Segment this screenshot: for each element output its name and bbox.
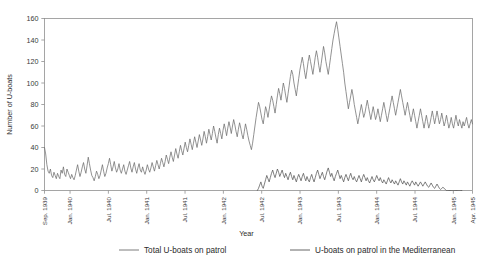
y-tick-label: 0 — [35, 186, 39, 195]
legend-label: U-boats on patrol in the Mediterranean — [315, 246, 456, 255]
legend-label: Total U-boats on patrol — [144, 246, 227, 255]
series-line-mediterranean — [257, 168, 462, 191]
y-axis-title: Number of U-boats — [5, 74, 14, 135]
y-axis-tick-group: 020406080100120140160 — [27, 14, 45, 195]
series-line-total — [45, 22, 473, 181]
series-group — [45, 22, 473, 191]
y-tick-label: 140 — [27, 36, 39, 45]
x-tick-label: Jan. 1942 — [220, 196, 227, 224]
x-tick-label: Jan. 1945 — [450, 196, 457, 224]
x-tick-label: Jan. 1943 — [296, 196, 303, 224]
y-tick-label: 100 — [27, 79, 39, 88]
x-tick-label: Jan. 1944 — [373, 196, 380, 224]
x-tick-label: Jul. 1943 — [335, 196, 342, 222]
x-tick-label: Apr. 1945 — [469, 196, 476, 223]
x-tick-label: Jan. 1940 — [66, 196, 73, 224]
y-tick-label: 120 — [27, 57, 39, 66]
y-tick-label: 40 — [31, 143, 39, 152]
y-tick-label: 20 — [31, 165, 39, 174]
x-tick-label: Jul. 1942 — [258, 196, 265, 222]
y-tick-label: 80 — [31, 100, 39, 109]
x-tick-label: Jul. 1941 — [181, 196, 188, 222]
x-tick-label: Jul. 1944 — [411, 196, 418, 222]
x-axis-title: Year — [239, 229, 254, 238]
y-tick-label: 60 — [31, 122, 39, 131]
x-tick-label: Sep. 1939 — [41, 196, 48, 225]
chart-container: 020406080100120140160 Sep. 1939Jan. 1940… — [0, 0, 489, 264]
chart-legend: Total U-boats on patrolU-boats on patrol… — [119, 246, 456, 255]
x-tick-label: Jan. 1941 — [143, 196, 150, 224]
u-boat-line-chart: 020406080100120140160 Sep. 1939Jan. 1940… — [0, 0, 489, 264]
y-tick-label: 160 — [27, 14, 39, 23]
x-axis-tick-group: Sep. 1939Jan. 1940Jul. 1940Jan. 1941Jul.… — [41, 191, 476, 226]
x-tick-label: Jul. 1940 — [105, 196, 112, 222]
